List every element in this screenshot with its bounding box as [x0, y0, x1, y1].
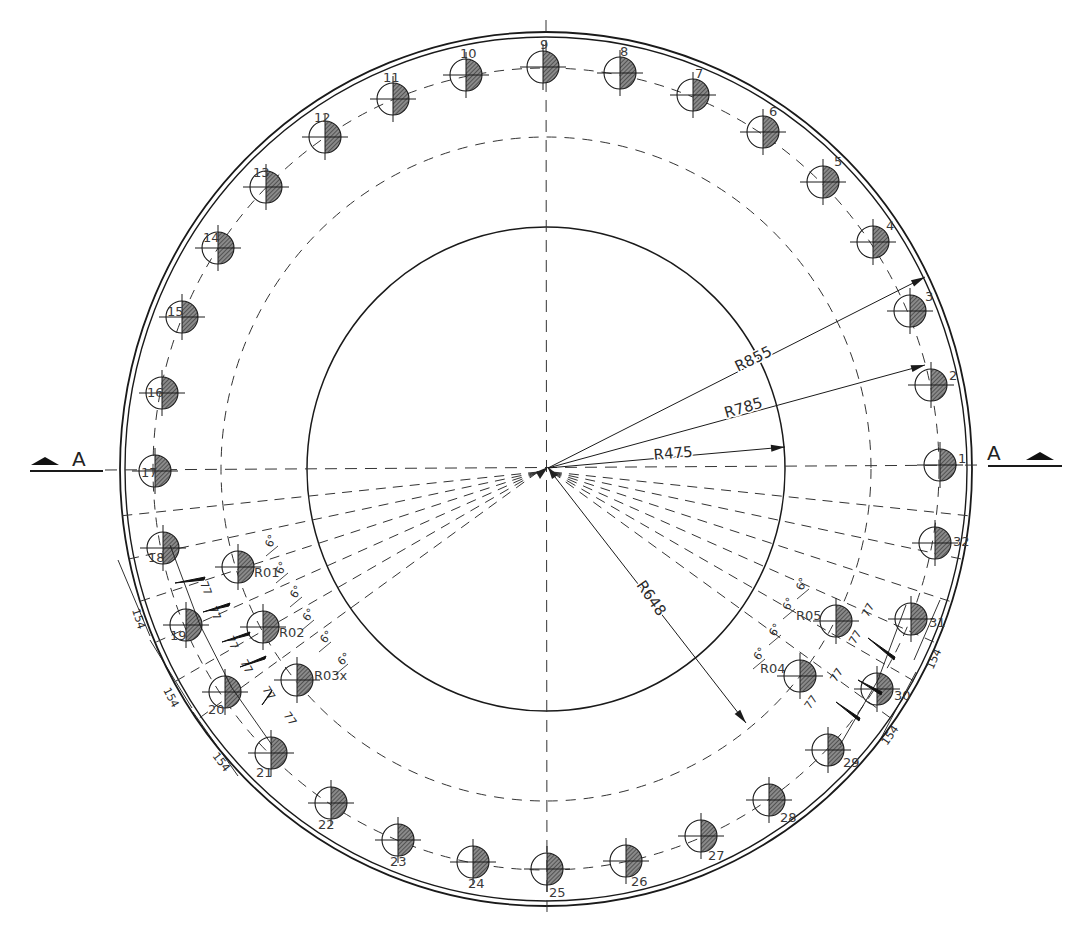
radius-label: R475 — [653, 443, 693, 464]
bolt-hole-30: 30 — [854, 666, 911, 712]
angle-dimension-label: 6° — [335, 650, 353, 668]
bolt-number-label: 30 — [894, 688, 911, 703]
angle-ray-left — [127, 472, 538, 559]
bolt-number-label: 22 — [318, 817, 335, 832]
angle-dimension-label: 6° — [766, 621, 784, 638]
bolt-hole-23: 23 — [375, 817, 421, 869]
linear-dimension-label: 77 — [259, 684, 277, 703]
angle-ray-left — [120, 472, 538, 516]
reference-hole-label: R05 — [796, 608, 822, 623]
bolt-hole-26: 26 — [603, 838, 649, 889]
bolt-number-label: 18 — [148, 550, 165, 565]
section-arrow-icon — [31, 457, 59, 465]
center-wedge — [536, 467, 548, 479]
radius-dimensions: R855R785R475R648 — [548, 277, 925, 723]
bolt-number-label: 5 — [834, 154, 842, 169]
bolt-hole-21: 21 — [248, 730, 294, 780]
bolt-number-label: 15 — [167, 304, 184, 319]
bolt-number-label: 25 — [549, 885, 566, 900]
bolt-number-label: 29 — [843, 755, 860, 770]
bolt-number-label: 16 — [147, 385, 164, 400]
bolt-hole-12: 12 — [302, 110, 348, 160]
bolt-hole-20: 20 — [202, 669, 248, 717]
angle-dimension-label: 6° — [300, 606, 318, 624]
linear-dimension-label: 154 — [924, 647, 944, 671]
bolt-hole-18: 18 — [140, 525, 186, 571]
bolt-number-label: 8 — [620, 44, 628, 59]
linear-dimension-label: 77 — [859, 601, 877, 619]
angle-ray-right — [552, 472, 892, 719]
bolt-hole-14: 14 — [195, 225, 241, 271]
angle-ray-left — [198, 472, 538, 719]
dashed-angle-rays — [120, 467, 969, 719]
bolt-number-label: 7 — [695, 66, 703, 81]
bolt-hole-19: 19 — [163, 602, 209, 648]
bolt-number-label: 6 — [769, 104, 777, 119]
section-arrow-icon — [1026, 452, 1054, 460]
dimension-line — [193, 712, 238, 776]
inner-reference-holes: R01R02R03xR04R05 — [215, 544, 859, 703]
bolt-holes: 1234567891011121314151617181920212223242… — [132, 37, 970, 900]
dimension-arrow-icon — [868, 638, 895, 660]
section-label: A — [72, 447, 86, 471]
angle-ray-left — [139, 472, 538, 602]
bolt-number-label: 2 — [949, 368, 957, 383]
bolt-hole-27: 27 — [678, 813, 725, 863]
center-lines — [105, 20, 985, 915]
linear-dimension-label: 154 — [129, 607, 148, 631]
angle-ray-right — [552, 472, 936, 643]
bolt-hole-13: 13 — [243, 164, 289, 210]
bolt-number-label: 19 — [170, 628, 187, 643]
bolt-hole-5: 5 — [800, 154, 846, 205]
linear-dimension-label: 77 — [828, 666, 846, 685]
bolt-hole-11: 11 — [370, 70, 416, 122]
bolt-hole-32: 32 — [912, 520, 970, 566]
bolt-hole-17: 17 — [132, 448, 178, 494]
angle-dimension-label: 6° — [263, 533, 279, 549]
angle-ray-right — [552, 472, 916, 682]
bolt-hole-1: 1 — [917, 442, 966, 488]
reference-hole-label: R02 — [279, 625, 305, 640]
bolt-hole-4: 4 — [850, 218, 896, 265]
arrowhead-icon — [771, 445, 785, 452]
bolt-hole-8: 8 — [597, 44, 643, 96]
bolt-hole-22: 22 — [308, 780, 354, 832]
bolt-hole-25: 25 — [524, 846, 570, 900]
bolt-hole-7: 7 — [670, 66, 716, 118]
bolt-number-label: 17 — [141, 465, 158, 480]
reference-hole-R02: R02 — [240, 604, 305, 650]
bolt-number-label: 4 — [886, 218, 894, 233]
linear-dimension-label: 77 — [802, 693, 821, 712]
linear-dimension-label: 77 — [197, 580, 214, 598]
bolt-number-label: 24 — [468, 876, 485, 891]
dimension-arrow-icon — [836, 702, 860, 721]
bolt-number-label: 32 — [953, 534, 970, 549]
bolt-number-label: 27 — [708, 848, 725, 863]
radius-label: R648 — [633, 577, 670, 619]
angle-ray-right — [552, 472, 963, 559]
bolt-hole-10: 10 — [443, 46, 489, 98]
pitch-dimension-line — [170, 545, 200, 625]
bolt-number-label: 10 — [460, 46, 477, 61]
bolt-number-label: 11 — [383, 70, 400, 85]
reference-hole-label: R03x — [314, 668, 348, 683]
bolt-hole-9: 9 — [520, 37, 566, 90]
bolt-hole-16: 16 — [139, 370, 185, 416]
bolt-number-label: 31 — [929, 615, 946, 630]
bolt-number-label: 9 — [540, 37, 548, 52]
bolt-hole-29: 29 — [805, 727, 860, 773]
bolt-hole-24: 24 — [450, 839, 496, 891]
linear-dimension-label: 77 — [281, 709, 300, 728]
angle-ray-right — [552, 472, 951, 602]
bolt-number-label: 20 — [208, 702, 225, 717]
bolt-number-label: 23 — [390, 854, 407, 869]
bolt-number-label: 28 — [780, 810, 797, 825]
radius-leader-line — [548, 277, 925, 468]
bolt-number-label: 12 — [314, 110, 331, 125]
angle-dimension-label: 6° — [317, 628, 335, 646]
angle-dimension-label: 6° — [794, 576, 810, 592]
angle-ray-right — [552, 472, 970, 516]
bolt-number-label: 1 — [958, 451, 966, 466]
bolt-number-label: 21 — [256, 765, 273, 780]
reference-hole-R04: R04 — [760, 653, 823, 699]
